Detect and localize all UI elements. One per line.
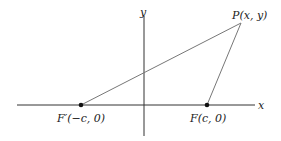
- y-axis-label: y: [139, 6, 147, 19]
- focus-f-prime-label: F′(−c, 0): [56, 112, 105, 125]
- segment-fprime-to-p: [81, 23, 241, 105]
- point-p-label: P(x, y): [231, 9, 267, 22]
- focus-f-point: [205, 103, 210, 108]
- focus-f-label: F(c, 0): [189, 112, 226, 125]
- segment-f-to-p: [207, 23, 241, 105]
- focus-f-prime-point: [79, 103, 84, 108]
- x-axis-label: x: [258, 99, 265, 112]
- focal-distance-diagram: x y P(x, y) F′(−c, 0) F(c, 0): [0, 0, 281, 141]
